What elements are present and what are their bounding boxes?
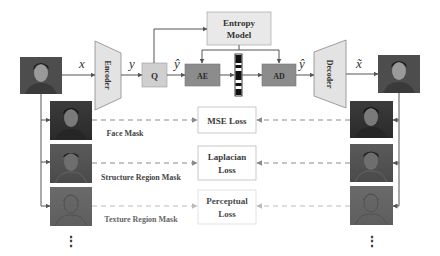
texture-mask-image-left — [50, 187, 92, 226]
input-face-image — [20, 57, 62, 94]
ellipsis-right: ⋮ — [365, 234, 379, 249]
perceptual-loss-label-line1: Perceptual — [206, 196, 248, 206]
structure-mask-image-right — [350, 144, 393, 182]
compression-pipeline-diagram: x Encoder y Q ŷ Entropy Model AE — [0, 0, 440, 256]
encoder-label: Encoder — [103, 61, 112, 90]
symbol-y-hat-decoded: ŷ — [297, 56, 305, 71]
caption-structure-mask: Structure Region Mask — [101, 173, 181, 182]
face-mask-image-right — [350, 101, 393, 138]
bitstream-icon — [235, 54, 242, 96]
laplacian-loss-label-line2: Loss — [218, 165, 236, 175]
ad-label: AD — [273, 72, 285, 81]
mse-loss-box: MSE Loss — [198, 107, 256, 133]
mse-loss-label: MSE Loss — [207, 116, 247, 126]
laplacian-loss-label-line1: Laplacian — [208, 152, 247, 162]
symbol-y: y — [127, 56, 135, 71]
symbol-x-tilde: x̃ — [355, 56, 363, 71]
symbol-y-hat-quantized: ŷ — [172, 56, 180, 71]
decoder-label: Decoder — [325, 60, 334, 89]
symbol-x: x — [78, 56, 85, 71]
entropy-model-label-line2: Model — [227, 30, 252, 40]
face-mask-image-left — [50, 101, 92, 140]
caption-texture-mask: Texture Region Mask — [104, 215, 178, 224]
texture-mask-image-right — [350, 186, 393, 225]
arrow-entropy-to-ae — [202, 50, 239, 63]
laplacian-loss-box: Laplacian Loss — [198, 146, 256, 180]
arrow-entropy-to-ad — [239, 50, 279, 63]
structure-mask-image-left — [50, 144, 92, 183]
quantizer-block: Q — [142, 63, 167, 87]
entropy-model-label-line1: Entropy — [223, 18, 255, 28]
quantizer-label: Q — [151, 71, 158, 81]
perceptual-loss-box: Perceptual Loss — [198, 190, 256, 224]
perceptual-loss-label-line2: Loss — [218, 209, 236, 219]
arithmetic-decoder-block: AD — [262, 64, 296, 86]
decoder-block: Decoder — [314, 40, 346, 108]
arithmetic-encoder-block: AE — [185, 64, 220, 86]
ae-label: AE — [197, 72, 208, 81]
entropy-model-block: Entropy Model — [207, 12, 271, 45]
ellipsis-left: ⋮ — [64, 234, 78, 249]
output-face-image — [378, 55, 420, 93]
encoder-block: Encoder — [95, 41, 121, 110]
caption-face-mask: Face Mask — [106, 129, 144, 138]
arrow-q-to-entropy-model — [154, 29, 207, 63]
